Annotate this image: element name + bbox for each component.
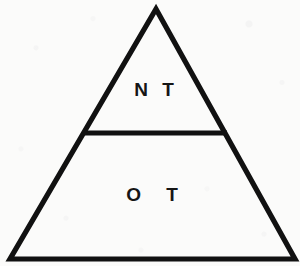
lower-tier-label: O T — [116, 185, 188, 204]
upper-tier-label: N T — [130, 80, 179, 99]
diagram-canvas: N T O T — [0, 0, 300, 266]
pyramid-shape — [0, 0, 300, 266]
